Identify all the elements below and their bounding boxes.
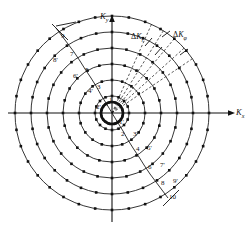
sample-point bbox=[111, 177, 114, 180]
sample-point bbox=[128, 16, 131, 19]
sample-point bbox=[31, 128, 34, 131]
sample-point bbox=[63, 124, 66, 127]
center-sample-point bbox=[114, 122, 116, 124]
sample-point bbox=[52, 140, 55, 143]
spiral-label-3p: 3' bbox=[133, 131, 138, 138]
sample-point bbox=[111, 161, 114, 164]
spiral-label-1p: 1' bbox=[119, 119, 124, 126]
sample-point bbox=[174, 97, 177, 100]
sample-point bbox=[36, 81, 39, 84]
sample-point bbox=[60, 152, 63, 155]
sample-point bbox=[159, 28, 162, 31]
sample-point bbox=[79, 122, 82, 125]
spiral-label-1: 1 bbox=[109, 97, 113, 104]
sample-point bbox=[43, 67, 46, 70]
sample-point bbox=[111, 145, 114, 148]
sample-point bbox=[139, 170, 142, 173]
spiral-label-6: 6 bbox=[148, 164, 152, 171]
sample-point bbox=[206, 129, 209, 132]
sample-point bbox=[128, 112, 131, 115]
sample-point bbox=[202, 145, 205, 148]
sample-point bbox=[20, 145, 23, 148]
sample-point bbox=[43, 157, 46, 160]
sample-point bbox=[127, 191, 130, 194]
sample-point bbox=[158, 124, 161, 127]
sample-point bbox=[135, 154, 138, 157]
sample-point bbox=[101, 143, 104, 146]
sample-point bbox=[160, 112, 163, 115]
x-axis-label: Kx bbox=[236, 108, 244, 119]
delta-kphi-label: ΔKφ bbox=[173, 31, 187, 41]
center-sample-point bbox=[100, 112, 102, 114]
sample-point bbox=[94, 16, 97, 19]
sample-point bbox=[62, 112, 65, 115]
sample-point bbox=[153, 87, 156, 90]
sample-point bbox=[95, 191, 98, 194]
sample-point bbox=[20, 79, 23, 82]
sample-point bbox=[83, 53, 86, 56]
spiral-label-10: 10 bbox=[169, 194, 176, 201]
sample-point bbox=[123, 100, 126, 103]
sample-point bbox=[169, 84, 172, 87]
sample-point bbox=[80, 187, 83, 190]
sample-point bbox=[159, 196, 162, 199]
sample-point bbox=[145, 77, 148, 80]
spiral-label-4p: 4' bbox=[88, 88, 93, 95]
sample-point bbox=[144, 21, 147, 24]
sample-point bbox=[80, 37, 83, 40]
sample-point bbox=[185, 174, 188, 177]
sample-point bbox=[15, 95, 18, 98]
sample-point bbox=[130, 85, 133, 88]
sample-point bbox=[111, 129, 114, 132]
spiral-label-4: 4 bbox=[136, 146, 140, 153]
sample-point bbox=[178, 67, 181, 70]
center-sample-point bbox=[104, 103, 106, 105]
sample-point bbox=[135, 69, 138, 72]
sample-point bbox=[144, 203, 147, 206]
sample-point bbox=[62, 28, 65, 31]
sample-point bbox=[202, 79, 205, 82]
sample-point bbox=[84, 92, 87, 95]
sample-point bbox=[27, 63, 30, 66]
sample-point bbox=[125, 48, 128, 51]
sample-point bbox=[83, 170, 86, 173]
sample-point bbox=[144, 112, 147, 115]
sample-point bbox=[96, 175, 99, 178]
sample-point bbox=[68, 87, 71, 90]
center-sample-point bbox=[120, 105, 122, 107]
sample-point bbox=[52, 84, 55, 87]
spiral-label-7p: 7' bbox=[160, 162, 165, 169]
sample-point bbox=[186, 143, 189, 146]
sample-point bbox=[86, 154, 89, 157]
sample-point bbox=[186, 81, 189, 84]
sample-point bbox=[126, 118, 129, 121]
sample-point bbox=[142, 102, 145, 105]
sample-point bbox=[195, 63, 198, 66]
sample-point bbox=[98, 159, 101, 162]
sample-point bbox=[60, 71, 63, 74]
center-sample-point bbox=[102, 118, 104, 120]
sample-point bbox=[62, 196, 65, 199]
spiral-label-6p: 6' bbox=[73, 73, 78, 80]
sample-point bbox=[15, 129, 18, 132]
sample-point bbox=[78, 21, 81, 24]
sample-point bbox=[142, 122, 145, 125]
sample-point bbox=[30, 112, 33, 115]
sample-point bbox=[111, 193, 114, 196]
delta-kr-label: ΔKr bbox=[131, 33, 144, 43]
sample-point bbox=[14, 112, 17, 115]
sample-point bbox=[48, 186, 51, 189]
sample-point bbox=[70, 163, 73, 166]
sample-point bbox=[123, 64, 126, 67]
sample-point bbox=[192, 112, 195, 115]
center-sample-point bbox=[104, 121, 106, 123]
center-sample-point bbox=[111, 123, 113, 125]
sample-point bbox=[84, 131, 87, 134]
spiral-label-7: 7 bbox=[70, 51, 74, 58]
sample-point bbox=[206, 95, 209, 98]
figure-canvas: Kx Ky ΔKr ΔKφ 98'76'54'312' 1'23'45'67'8… bbox=[0, 0, 247, 228]
sample-point bbox=[117, 96, 120, 99]
y-axis-label: Ky bbox=[100, 12, 108, 23]
sample-point bbox=[78, 203, 81, 206]
sample-point bbox=[127, 32, 130, 35]
